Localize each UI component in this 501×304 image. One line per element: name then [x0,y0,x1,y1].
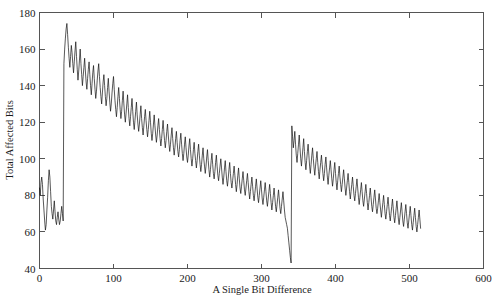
x-tick-label: 600 [475,272,492,284]
x-tick-label: 200 [179,272,196,284]
plot-svg: 0100200300400500600 40608010012014016018… [0,0,501,304]
x-tick-label: 0 [37,272,43,284]
y-tick-label: 60 [25,226,37,238]
y-tick-label: 160 [19,43,36,55]
x-tick-label: 500 [401,272,418,284]
x-tick-label: 400 [327,272,344,284]
x-axis-title: A Single Bit Difference [212,284,312,295]
y-tick-label: 100 [19,153,36,165]
x-tick-label: 100 [105,272,122,284]
y-tick-label: 140 [19,80,36,92]
x-tick-labels: 0100200300400500600 [37,272,493,284]
chart-figure: 0100200300400500600 40608010012014016018… [0,0,501,304]
y-tick-label: 180 [19,7,36,19]
x-tick-label: 300 [253,272,270,284]
data-series-line [40,23,421,263]
y-tick-label: 80 [25,189,37,201]
y-tick-label: 120 [19,116,36,128]
y-tick-labels: 406080100120140160180 [19,7,36,275]
y-tick-label: 40 [25,263,37,275]
y-axis-title: Total Affected Bits [4,100,15,180]
